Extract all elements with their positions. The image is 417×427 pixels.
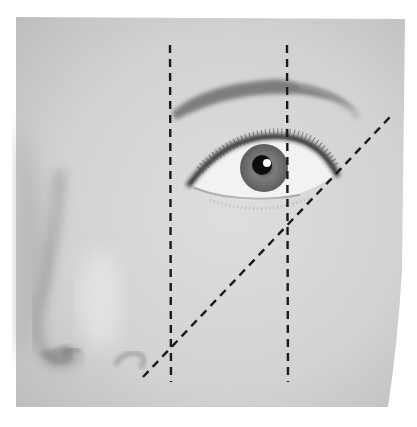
catchlight [263,159,271,167]
eyebrow-guide-illustration [0,0,417,427]
